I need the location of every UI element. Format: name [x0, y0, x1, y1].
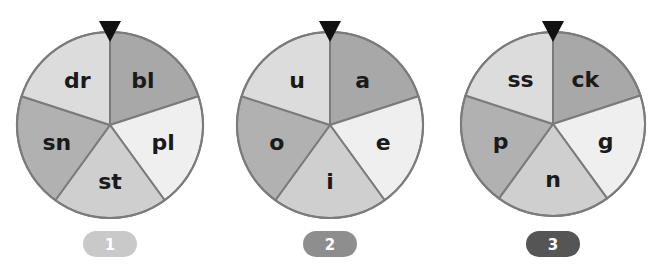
wheel-number-label: 1 — [105, 236, 115, 254]
wheel-number-label: 3 — [548, 236, 558, 254]
wheel-number-label: 2 — [325, 236, 335, 254]
segment-label: dr — [64, 68, 91, 93]
segment-label: ck — [572, 67, 601, 92]
segment-label: n — [545, 167, 561, 192]
segment-label: u — [289, 68, 305, 93]
segment-label: ss — [507, 67, 533, 92]
segment-label: g — [598, 129, 614, 154]
spinner-wheel-3: ckgnpss3 — [461, 21, 645, 257]
spinner-wheel-1: blplstsndr1 — [17, 21, 203, 257]
spinner-wheels-diagram: blplstsndr1aeiou2ckgnpss3 — [0, 0, 658, 277]
spinner-wheel-2: aeiou2 — [237, 21, 423, 257]
segment-label: pl — [151, 130, 174, 155]
segment-label: p — [493, 129, 509, 154]
segment-label: sn — [43, 130, 72, 155]
segment-label: i — [326, 169, 334, 194]
segment-label: st — [98, 169, 122, 194]
segment-label: e — [376, 130, 391, 155]
segment-label: bl — [131, 68, 154, 93]
segment-label: a — [355, 68, 370, 93]
segment-label: o — [269, 130, 284, 155]
